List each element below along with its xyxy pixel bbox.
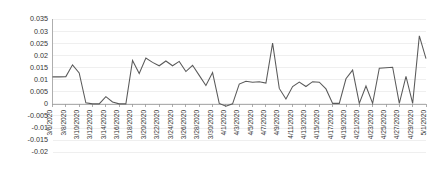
x-tick-label: 3/14/2020 [100,110,107,140]
x-tick-label: 3/26/2020 [180,110,187,140]
y-tick-label: 0.015 [30,63,48,72]
x-tick-label: 3/18/2020 [127,110,134,140]
y-tick-label: 0.01 [34,75,48,84]
x-tick-label: 4/11/2020 [287,110,294,139]
x-axis-tick-labels: 3/6/20203/8/20203/10/20203/12/20203/14/2… [47,110,428,140]
y-tick-label: -0.005 [28,111,48,120]
x-tick-label: 4/9/2020 [273,110,280,136]
y-tick-label: 0.035 [30,14,48,23]
x-tick-label: 4/17/2020 [327,110,334,140]
y-tick-label: -0.015 [28,135,48,144]
x-tick-label: 4/5/2020 [247,110,254,136]
x-tick-label: 4/13/2020 [300,110,307,140]
chart-canvas: 0.0350.030.0250.020.0150.010.0050-0.005-… [0,0,439,172]
x-tick-label: 4/7/2020 [260,110,267,136]
x-tick-label: 3/20/2020 [140,110,147,140]
x-tick-label: 4/25/2020 [380,110,387,140]
x-tick-label: 4/21/2020 [353,110,360,140]
x-tick-label: 3/10/2020 [73,110,80,140]
x-tick-label: 4/1/2020 [220,110,227,136]
y-tick-label: 0.025 [30,39,48,48]
x-tick-label: 3/16/2020 [113,110,120,140]
x-tick-label: 3/28/2020 [193,110,200,140]
y-tick-label: 0.005 [30,87,48,96]
x-tick-label: 4/23/2020 [367,110,374,140]
x-tick-label: 3/6/2020 [47,110,54,136]
x-tick-label: 3/24/2020 [167,110,174,140]
y-tick-label: 0 [44,99,48,108]
line-chart: 0.0350.030.0250.020.0150.010.0050-0.005-… [0,0,439,172]
x-tick-label: 3/30/2020 [207,110,214,140]
y-axis-tick-labels: 0.0350.030.0250.020.0150.010.0050-0.005-… [28,14,48,156]
x-tick-label: 4/27/2020 [393,110,400,140]
y-tick-label: 0.02 [34,51,48,60]
x-tick-label: 4/29/2020 [407,110,414,140]
x-tick-label: 3/12/2020 [87,110,94,140]
x-tick-label: 3/22/2020 [153,110,160,140]
data-series-line [53,36,427,106]
x-tick-label: 3/8/2020 [60,110,67,136]
x-tick-label: 4/15/2020 [313,110,320,140]
x-tick-label: 5/1/2020 [420,110,427,136]
x-tick-label: 4/3/2020 [233,110,240,136]
x-tick-label: 4/19/2020 [340,110,347,140]
y-tick-label: -0.02 [32,147,48,156]
y-tick-label: 0.03 [34,27,48,36]
